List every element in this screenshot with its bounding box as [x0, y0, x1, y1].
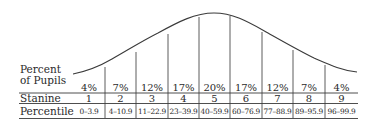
percentile-cell: 89–95.9	[293, 106, 325, 117]
percent-cell: 12%	[262, 82, 293, 93]
percentile-cell: 40–59.9	[199, 106, 230, 117]
percent-cell: 17%	[230, 82, 262, 93]
percentile-cell: 77–88.9	[262, 106, 293, 117]
percent-cell: 12%	[136, 82, 168, 93]
percentile-cell: 11–22.9	[136, 106, 168, 117]
percentile-cell: 96–99.9	[325, 106, 358, 117]
stanine-cell: 6	[230, 93, 262, 104]
percentile-cell: 0–3.9	[73, 106, 105, 117]
percent-cell: 4%	[325, 82, 358, 93]
stanine-cell: 8	[293, 93, 325, 104]
stanine-cell: 4	[168, 93, 199, 104]
percentile-cell: 4–10.9	[105, 106, 136, 117]
stanine-cell: 7	[262, 93, 293, 104]
percent-label-line2: of Pupils	[20, 75, 66, 86]
percent-cell: 4%	[73, 82, 105, 93]
percent-cell: 17%	[168, 82, 199, 93]
percentile-cell: 23–39.9	[168, 106, 199, 117]
stanine-cell: 5	[199, 93, 230, 104]
percent-cell: 7%	[293, 82, 325, 93]
stanine-label: Stanine	[20, 93, 61, 104]
percent-cell: 20%	[199, 82, 230, 93]
stanine-cell: 9	[325, 93, 358, 104]
percentile-cell: 60–76.9	[230, 106, 262, 117]
stanine-cell: 3	[136, 93, 168, 104]
bell-curve	[73, 13, 357, 74]
stanine-cell: 2	[105, 93, 136, 104]
percent-cell: 7%	[105, 82, 136, 93]
stanine-cell: 1	[73, 93, 105, 104]
percentile-label: Percentile	[20, 106, 74, 117]
